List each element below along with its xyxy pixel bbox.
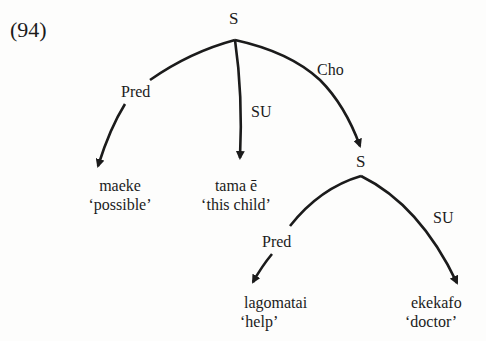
- edge-label-root-su: SU: [251, 104, 271, 120]
- leaf-word: maeke: [78, 176, 162, 195]
- edge-emb-pred-upper: [290, 176, 361, 226]
- leaf-ekekafo: ekekafo ‘doctor’: [405, 293, 475, 331]
- edge-label-root-cho: Cho: [317, 62, 344, 78]
- embedded-s-node: S: [356, 153, 365, 170]
- edge-label-embedded-pred: Pred: [262, 234, 291, 250]
- edge-root-cho: [235, 40, 360, 146]
- edge-emb-pred-lower: [253, 254, 272, 282]
- edge-root-pred-upper: [150, 40, 235, 80]
- example-number: (94): [10, 19, 47, 41]
- edge-root-su: [235, 40, 241, 158]
- leaf-gloss: ‘doctor’: [405, 312, 475, 331]
- leaf-word: ekekafo: [405, 293, 475, 312]
- edge-emb-su: [361, 176, 457, 283]
- leaf-tama-e: tama ē ‘this child’: [190, 176, 282, 214]
- leaf-lagomatai: lagomatai ‘help’: [240, 293, 322, 331]
- leaf-gloss: ‘this child’: [190, 195, 282, 214]
- leaf-maeke: maeke ‘possible’: [78, 176, 162, 214]
- edge-root-pred-lower: [98, 104, 125, 166]
- tree-edges: [0, 0, 486, 341]
- edge-label-embedded-su: SU: [433, 210, 453, 226]
- leaf-gloss: ‘possible’: [78, 195, 162, 214]
- root-s-node: S: [229, 10, 238, 27]
- edge-label-root-pred: Pred: [121, 84, 150, 100]
- leaf-gloss: ‘help’: [240, 312, 322, 331]
- leaf-word: tama ē: [190, 176, 282, 195]
- leaf-word: lagomatai: [240, 293, 322, 312]
